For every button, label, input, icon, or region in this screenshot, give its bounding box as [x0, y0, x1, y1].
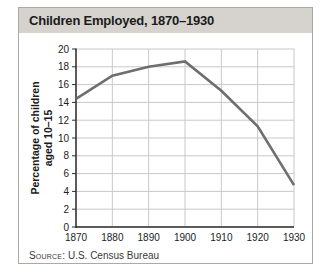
x-tick-label: 1890	[138, 232, 161, 243]
chart-title-bar: Children Employed, 1870–1930	[19, 8, 312, 33]
y-tick-label: 20	[58, 44, 70, 55]
y-tick-label: 18	[58, 61, 70, 72]
x-tick-label: 1900	[174, 232, 197, 243]
source-prefix: Source:	[29, 250, 65, 261]
y-tick-label: 6	[63, 168, 69, 179]
source-note: Source: U.S. Census Bureau	[29, 250, 159, 261]
chart-title: Children Employed, 1870–1930	[29, 13, 214, 28]
y-tick-label: 14	[58, 97, 70, 108]
y-tick-label: 16	[58, 79, 70, 90]
x-tick-label: 1920	[247, 232, 270, 243]
x-tick-label: 1930	[283, 232, 306, 243]
source-text: U.S. Census Bureau	[68, 250, 159, 261]
y-tick-label: 8	[63, 150, 69, 161]
x-tick-label: 1870	[65, 232, 88, 243]
y-axis-label-line1: Percentage of children	[29, 81, 42, 194]
y-tick-label: 2	[63, 204, 69, 215]
y-tick-label: 12	[58, 115, 70, 126]
y-axis-label: Percentage of children aged 10–15	[29, 81, 55, 194]
chart-svg: 0246810121416182018701880189019001910192…	[19, 33, 314, 253]
y-tick-label: 4	[63, 186, 69, 197]
y-tick-label: 0	[63, 222, 69, 233]
x-tick-label: 1910	[210, 232, 233, 243]
y-tick-label: 10	[58, 133, 70, 144]
chart-card: Children Employed, 1870–1930 02468101214…	[18, 7, 313, 264]
y-axis-label-line2: aged 10–15	[42, 81, 55, 194]
x-tick-label: 1880	[101, 232, 124, 243]
